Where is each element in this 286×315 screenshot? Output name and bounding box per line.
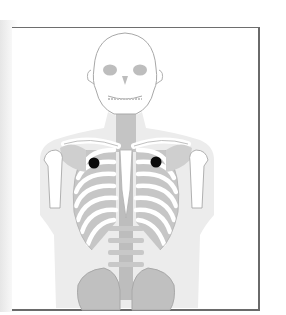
skeleton-figure (0, 0, 286, 315)
skull (87, 33, 162, 114)
right-chest-marker (151, 157, 162, 168)
left-chest-marker (89, 158, 100, 169)
